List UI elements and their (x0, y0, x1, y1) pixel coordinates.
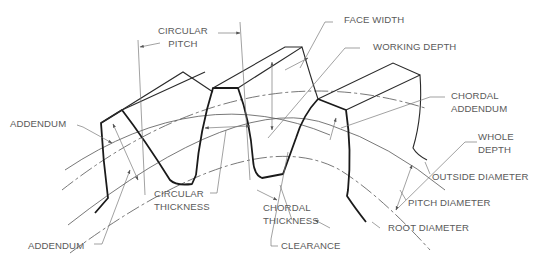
label-clearance: CLEARANCE (281, 240, 341, 253)
label-root-diameter: ROOT DIAMETER (388, 222, 469, 235)
label-chordal-addendum: CHORDAL ADDENDUM (451, 90, 507, 115)
circular-thickness-leader (205, 126, 250, 193)
label-circular-pitch: CIRCULAR PITCH (158, 25, 208, 50)
label-line: CHORDAL (451, 90, 507, 103)
label-circular-thickness: CIRCULAR THICKNESS (154, 188, 210, 213)
label-line: DEPTH (478, 144, 514, 157)
label-line: THICKNESS (154, 201, 210, 214)
label-line: CHORDAL (263, 202, 319, 215)
label-outside-diameter: OUTSIDE DIAMETER (432, 171, 528, 184)
label-line: ADDENDUM (451, 103, 507, 116)
label-line: CIRCULAR (158, 25, 208, 38)
root-diameter-circle (70, 156, 430, 253)
label-face-width: FACE WIDTH (344, 14, 404, 27)
label-line: THICKNESS (263, 215, 319, 228)
label-line: WHOLE (478, 131, 514, 144)
label-pitch-diameter: PITCH DIAMETER (408, 197, 490, 210)
label-whole-depth: WHOLE DEPTH (478, 131, 514, 156)
label-line: CIRCULAR (154, 188, 210, 201)
pitch-diameter-circle (68, 118, 445, 225)
gear-nomenclature-diagram: CIRCULAR PITCH FACE WIDTH WORKING DEPTH … (0, 0, 535, 263)
label-addendum-bottom: ADDENDUM (28, 240, 84, 253)
face-width-leader (285, 22, 333, 70)
clearance-leader (271, 152, 288, 246)
label-chordal-thickness: CHORDAL THICKNESS (263, 202, 319, 227)
label-addendum-top: ADDENDUM (10, 118, 66, 131)
label-line: PITCH (158, 38, 208, 51)
label-working-depth: WORKING DEPTH (373, 41, 456, 54)
